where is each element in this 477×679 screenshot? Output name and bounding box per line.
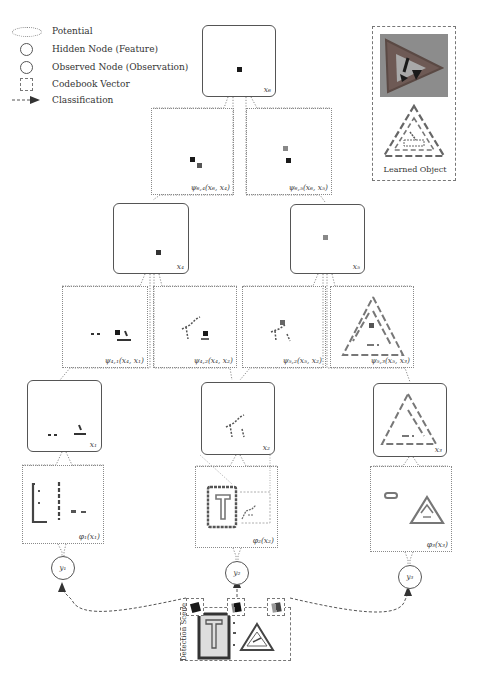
potential-phi3: φ₃(x₃) [370, 466, 452, 552]
potential-label: φ₂(x₂) [253, 536, 274, 545]
potential-label: ψ₆,₄(x₆, x₄) [191, 183, 230, 192]
potential-label: ψ₄,₂(x₄, x₂) [194, 356, 233, 365]
node-label: y₁ [60, 564, 67, 572]
feature-marker [237, 67, 242, 72]
codebook-patch [231, 602, 241, 612]
potential-label: ψ₅,₃(x₅, x₃) [371, 356, 410, 365]
hidden-node-x6: x₆ [202, 25, 276, 97]
potential-label: φ₃(x₃) [427, 540, 448, 549]
feature-marker [197, 163, 202, 168]
potential-psi42: ψ₄,₂(x₄, x₂) [153, 286, 237, 368]
potential-label: ψ₆,₅(x₆, x₅) [289, 183, 328, 192]
node-label: x₃ [435, 445, 442, 454]
codebook-vector-1 [186, 598, 204, 616]
feature-marker [286, 158, 291, 163]
potential-phi2: φ₂(x₂) [195, 466, 278, 548]
potential-psi52: ψ₅,₂(x₅, x₂) [242, 286, 326, 368]
potential-psi41: ψ₄,₁(x₄, x₁) [62, 286, 148, 368]
potential-psi65: ψ₆,₅(x₆, x₅) [246, 108, 332, 195]
codebook-vector-3 [267, 598, 285, 616]
hidden-node-x4: x₄ [113, 203, 189, 274]
node-label: x₄ [177, 262, 184, 271]
node-label: y₂ [234, 569, 241, 577]
codebook-vector-2 [227, 598, 245, 616]
potential-label: ψ₅,₂(x₅, x₂) [283, 356, 322, 365]
node-label: x₆ [264, 85, 271, 94]
node-label: x₁ [90, 440, 97, 449]
potential-psi64: ψ₆,₄(x₆, x₄) [151, 108, 234, 195]
node-label: y₃ [407, 573, 414, 581]
potential-psi53: ψ₅,₃(x₅, x₃) [330, 286, 414, 368]
codebook-patch [190, 602, 201, 613]
hidden-node-x1: x₁ [27, 380, 102, 452]
potential-label: φ₁(x₁) [79, 532, 100, 541]
hidden-node-x3: x₃ [373, 383, 447, 457]
observed-node-y2: y₂ [225, 561, 249, 585]
feature-marker [283, 146, 288, 151]
feature-marker [156, 250, 161, 255]
feature-marker [323, 235, 328, 240]
node-label: x₅ [353, 262, 360, 271]
hidden-node-x5: x₅ [290, 204, 365, 274]
hidden-node-x2: x₂ [201, 382, 275, 455]
feature-marker [190, 157, 195, 162]
node-label: x₂ [263, 443, 270, 452]
codebook-patch [271, 602, 281, 612]
potential-phi1: φ₁(x₁) [22, 465, 104, 544]
observed-node-y3: y₃ [398, 565, 422, 589]
potential-label: ψ₄,₁(x₄, x₁) [105, 356, 144, 365]
observed-node-y1: y₁ [51, 556, 75, 580]
